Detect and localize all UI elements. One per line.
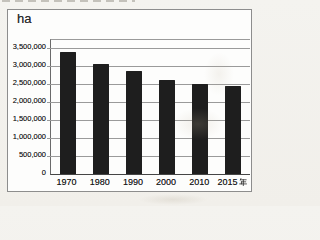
y-tick-label: 0 — [6, 168, 46, 177]
gridline — [47, 102, 250, 103]
y-tick-label: 2,000,000 — [6, 96, 46, 105]
bar-1980 — [93, 64, 109, 174]
gridline — [47, 120, 250, 121]
y-tick-label: 500,000 — [6, 150, 46, 159]
gridline — [47, 138, 250, 139]
x-tick-label: 2000 — [149, 177, 183, 187]
gridline — [47, 84, 250, 85]
gridline — [47, 156, 250, 157]
y-axis-unit-label: ha — [17, 11, 31, 26]
gridline — [47, 48, 250, 49]
y-tick-label: 2,500,000 — [6, 78, 46, 87]
x-tick-text: 1970 — [57, 177, 77, 187]
gridline — [47, 66, 250, 67]
x-tick-label: 1970 — [50, 177, 84, 187]
cropped-text-remnant — [2, 0, 135, 2]
x-tick-text: 2010 — [189, 177, 209, 187]
bar-2015 — [225, 86, 241, 174]
bar-1990 — [126, 71, 142, 174]
year-kanji-icon — [239, 178, 247, 186]
plot-area — [50, 39, 250, 175]
bar-2000 — [159, 80, 175, 174]
x-tick-label: 1980 — [83, 177, 117, 187]
x-tick-label: 1990 — [116, 177, 150, 187]
scan-smudge — [138, 194, 208, 205]
x-tick-text: 2000 — [156, 177, 176, 187]
x-tick-text: 2015 — [217, 177, 237, 187]
y-tick-label: 3,000,000 — [6, 60, 46, 69]
x-tick-label: 2010 — [182, 177, 216, 187]
y-tick-label: 1,500,000 — [6, 114, 46, 123]
bar-2010 — [192, 84, 208, 174]
x-tick-label: 2015 — [215, 177, 249, 187]
bar-1970 — [60, 52, 76, 174]
x-tick-text: 1980 — [90, 177, 110, 187]
y-tick-label: 1,000,000 — [6, 132, 46, 141]
y-tick-label: 3,500,000 — [6, 42, 46, 51]
x-tick-text: 1990 — [123, 177, 143, 187]
